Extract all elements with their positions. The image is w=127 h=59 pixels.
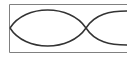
wave-curve-upper (10, 10, 127, 28)
wave-curve-lower (10, 28, 127, 46)
standing-wave-diagram (0, 0, 127, 59)
